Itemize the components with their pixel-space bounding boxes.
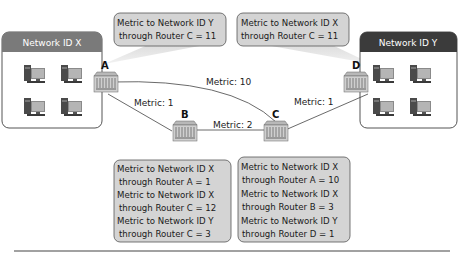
bubble-line: Metric to Network ID Y: [241, 216, 338, 226]
bubble-line: Metric to Network ID X: [117, 190, 214, 200]
bubble-a-tail: [104, 44, 210, 64]
bubble-router-d: Metric to Network ID X through Router C …: [237, 13, 349, 46]
router-c: C: [264, 109, 288, 141]
bubble-line: through Router C = 11: [119, 31, 216, 41]
bubble-line: Metric to Network ID X: [241, 162, 338, 172]
bubble-line: through Router C = 3: [119, 229, 211, 239]
router-d-label: D: [352, 60, 360, 71]
bubble-line: through Router D = 1: [242, 229, 334, 239]
bubble-line: Metric to Network ID Y: [117, 18, 214, 28]
network-y-label: Network ID Y: [379, 38, 438, 48]
bubble-line: through Router B = 3: [242, 202, 334, 212]
bubble-line: through Router A = 1: [119, 177, 211, 187]
router-icon: [264, 121, 288, 141]
link-a-b-metric: Metric: 1: [134, 98, 174, 108]
bubble-line: through Router C = 12: [119, 203, 216, 213]
bubble-line: through Router A = 10: [242, 175, 339, 185]
router-a-label: A: [101, 60, 109, 71]
router-icon: [94, 72, 118, 92]
router-b: B: [173, 109, 197, 141]
link-b-c-metric: Metric: 2: [213, 120, 253, 130]
router-c-label: C: [272, 109, 279, 120]
network-x: Network ID X: [2, 32, 102, 128]
bubble-line: Metric to Network ID X: [241, 18, 338, 28]
bubble-line: through Router C = 11: [241, 31, 338, 41]
bubble-line: Metric to Network ID Y: [117, 216, 214, 226]
network-y: Network ID Y: [360, 32, 457, 128]
router-icon: [344, 72, 368, 92]
bubble-router-a: Metric to Network ID Y through Router C …: [114, 13, 226, 46]
router-b-label: B: [181, 109, 189, 120]
network-x-label: Network ID X: [22, 38, 81, 48]
router-icon: [173, 121, 197, 141]
routing-diagram: Network ID X Network ID Y Metric: 10 Met…: [0, 0, 460, 258]
bubble-router-b: Metric to Network ID X through Router A …: [114, 160, 231, 242]
bubble-line: Metric to Network ID X: [117, 164, 214, 174]
link-a-c-metric: Metric: 10: [206, 77, 252, 87]
bubble-line: Metric to Network ID X: [241, 189, 338, 199]
link-c-d-metric: Metric: 1: [294, 97, 334, 107]
bubble-router-c: Metric to Network ID X through Router A …: [238, 157, 350, 242]
